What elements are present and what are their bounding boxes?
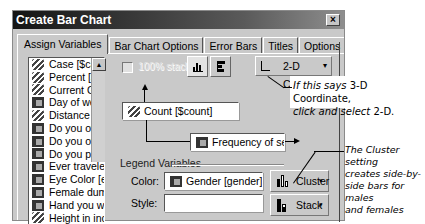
percent-stacked-checkbox[interactable] <box>122 62 133 73</box>
connector-line <box>146 141 192 142</box>
scale-variable-icon <box>32 110 44 121</box>
tab-assign-variables[interactable]: Assign Variables <box>17 34 108 54</box>
nominal-variable-icon <box>32 161 44 172</box>
list-item[interactable]: Hand you wr <box>29 199 104 212</box>
annotation-pointer <box>284 87 292 88</box>
cluster-label: Cluster <box>296 171 329 191</box>
close-icon: × <box>330 14 336 25</box>
close-button[interactable]: × <box>326 14 340 26</box>
vertical-bars-button[interactable] <box>187 56 208 77</box>
legend-divider <box>172 164 284 166</box>
nominal-variable-icon <box>32 97 44 108</box>
y-axis-variable-field[interactable]: Count [$count] <box>122 102 239 120</box>
scale-variable-icon <box>128 106 140 117</box>
horizontal-bars-button[interactable] <box>210 56 231 77</box>
list-item[interactable]: Female dumr <box>29 186 104 199</box>
coordinate-dropdown[interactable]: 2-D Coordinate ▾ <box>255 56 332 76</box>
style-label: Style: <box>131 197 157 209</box>
stacked-bars-icon <box>277 199 289 212</box>
chevron-up-icon: ▲ <box>96 61 103 68</box>
color-label: Color: <box>131 175 159 187</box>
coordinate-annotation: If this says 3-D Coordinate, click and s… <box>293 79 425 118</box>
nominal-variable-icon <box>32 136 44 147</box>
nominal-variable-icon <box>32 200 44 211</box>
scale-variable-icon <box>32 84 44 95</box>
color-variable-field[interactable]: Gender [gender] <box>164 172 263 190</box>
variable-list-scrollbar[interactable]: ▲ <box>91 58 105 162</box>
scale-variable-icon <box>32 59 44 70</box>
coordinate-axes-icon <box>261 61 270 71</box>
cluster-bars-icon <box>277 175 289 187</box>
nominal-variable-icon <box>32 123 44 134</box>
nominal-variable-icon <box>170 176 182 187</box>
x-axis-variable-field[interactable]: Frequency of seat be <box>190 133 285 151</box>
list-item[interactable]: Eye Color [ey <box>29 173 104 186</box>
arrow-right-icon <box>294 138 300 144</box>
chevron-down-icon: ▾ <box>323 57 327 75</box>
legend-variables-heading: Legend Variables <box>120 157 201 169</box>
tab-strip: Assign Variables Bar Chart Options Error… <box>17 34 345 54</box>
title-bar: Create Bar Chart × <box>13 11 344 29</box>
scroll-up-button[interactable]: ▲ <box>92 58 106 71</box>
dialog-edge <box>339 42 340 222</box>
vertical-bars-icon <box>193 62 203 72</box>
nominal-variable-icon <box>32 148 44 159</box>
tab-titles[interactable]: Titles <box>263 37 298 54</box>
window-title: Create Bar Chart <box>16 13 111 27</box>
annotation-pointer <box>314 151 344 152</box>
style-variable-field[interactable] <box>164 194 263 212</box>
chevron-down-icon: ▾ <box>319 195 323 215</box>
nominal-variable-icon <box>32 174 44 185</box>
cluster-annotation: The Cluster setting creates side-by- sid… <box>345 144 425 216</box>
scale-variable-icon <box>32 72 44 83</box>
list-item[interactable]: Height in incl <box>29 212 104 224</box>
chevron-down-icon: ▾ <box>319 171 323 191</box>
tab-error-bars[interactable]: Error Bars <box>204 37 262 54</box>
scale-variable-icon <box>32 212 44 223</box>
arrow-up-icon <box>142 84 148 90</box>
connector-line <box>146 120 147 142</box>
connector-line <box>144 89 145 103</box>
stack-dropdown[interactable]: Stack ▾ <box>270 194 329 216</box>
tab-bar-chart-options[interactable]: Bar Chart Options <box>109 37 203 54</box>
nominal-variable-icon <box>196 137 208 148</box>
nominal-variable-icon <box>32 187 44 198</box>
horizontal-bars-icon <box>217 62 227 72</box>
list-item[interactable]: Ever travelec <box>29 160 104 173</box>
